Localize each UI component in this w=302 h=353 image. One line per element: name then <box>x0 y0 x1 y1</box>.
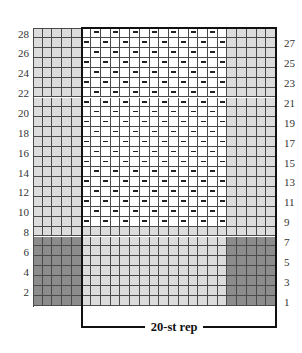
chart-cell <box>169 266 179 276</box>
chart-cell <box>62 107 72 117</box>
purl-symbol <box>152 151 157 153</box>
purl-symbol <box>142 180 147 182</box>
purl-symbol <box>133 31 138 33</box>
chart-cell <box>72 127 82 137</box>
chart-cell <box>227 237 237 247</box>
chart-cell <box>159 187 169 197</box>
chart-cell <box>120 68 130 78</box>
purl-symbol <box>201 101 206 103</box>
chart-cell <box>120 286 130 296</box>
chart-cell <box>33 117 43 127</box>
purl-symbol <box>210 91 215 93</box>
chart-cell <box>33 276 43 286</box>
chart-cell <box>189 266 199 276</box>
chart-cell <box>266 157 276 167</box>
chart-cell <box>101 227 111 237</box>
purl-symbol <box>133 210 138 212</box>
purl-symbol <box>191 91 196 93</box>
chart-cell <box>140 107 150 117</box>
chart-cell <box>140 227 150 237</box>
chart-cell <box>257 237 267 247</box>
chart-cell <box>227 88 237 98</box>
chart-cell <box>33 127 43 137</box>
purl-symbol <box>94 51 99 53</box>
chart-cell <box>101 266 111 276</box>
purl-symbol <box>142 200 147 202</box>
chart-cell <box>150 227 160 237</box>
chart-cell <box>91 137 101 147</box>
chart-cell <box>52 286 62 296</box>
chart-cell <box>218 68 228 78</box>
chart-cell <box>189 276 199 286</box>
chart-cell <box>198 107 208 117</box>
chart-cell <box>179 286 189 296</box>
chart-cell <box>208 227 218 237</box>
chart-cell <box>247 147 257 157</box>
chart-cell <box>150 58 160 68</box>
chart-cell <box>266 207 276 217</box>
purl-symbol <box>103 141 108 143</box>
chart-cell <box>208 286 218 296</box>
purl-symbol <box>94 131 99 133</box>
chart-cell <box>150 78 160 88</box>
purl-symbol <box>171 31 176 33</box>
chart-cell <box>43 98 53 108</box>
chart-cell <box>150 157 160 167</box>
chart-cell <box>266 78 276 88</box>
chart-cell <box>266 38 276 48</box>
chart-cell <box>247 78 257 88</box>
chart-cell <box>208 78 218 88</box>
purl-symbol <box>210 131 215 133</box>
chart-cell <box>91 117 101 127</box>
chart-cell <box>150 217 160 227</box>
purl-symbol <box>84 41 89 43</box>
chart-cell <box>198 276 208 286</box>
chart-cell <box>111 58 121 68</box>
chart-cell <box>101 167 111 177</box>
chart-cell <box>266 266 276 276</box>
chart-cell <box>120 246 130 256</box>
chart-cell <box>150 256 160 266</box>
purl-symbol <box>142 121 147 123</box>
chart-cell <box>247 227 257 237</box>
purl-symbol <box>181 101 186 103</box>
chart-cell <box>33 246 43 256</box>
purl-symbol <box>123 161 128 163</box>
chart-cell <box>198 68 208 78</box>
chart-cell <box>218 88 228 98</box>
chart-cell <box>150 296 160 306</box>
chart-cell <box>179 237 189 247</box>
chart-cell <box>247 98 257 108</box>
purl-symbol <box>113 91 118 93</box>
purl-symbol <box>220 180 225 182</box>
chart-cell <box>33 177 43 187</box>
chart-cell <box>237 38 247 48</box>
row-label-right: 17 <box>284 138 302 148</box>
chart-cell <box>237 127 247 137</box>
chart-cell <box>72 78 82 88</box>
chart-cell <box>62 28 72 38</box>
chart-cell <box>266 68 276 78</box>
chart-cell <box>159 296 169 306</box>
chart-cell <box>91 98 101 108</box>
chart-cell <box>130 217 140 227</box>
chart-cell <box>62 246 72 256</box>
purl-symbol <box>94 111 99 113</box>
chart-cell <box>72 177 82 187</box>
chart-cell <box>111 117 121 127</box>
chart-cell <box>169 296 179 306</box>
chart-cell <box>91 177 101 187</box>
chart-cell <box>33 207 43 217</box>
purl-symbol <box>191 210 196 212</box>
chart-cell <box>169 98 179 108</box>
chart-cell <box>227 68 237 78</box>
row-label-right: 5 <box>284 257 302 267</box>
purl-symbol <box>142 81 147 83</box>
chart-cell <box>33 78 43 88</box>
chart-cell <box>189 177 199 187</box>
chart-cell <box>82 246 92 256</box>
chart-cell <box>52 256 62 266</box>
chart-cell <box>247 246 257 256</box>
chart-cell <box>159 266 169 276</box>
chart-cell <box>33 217 43 227</box>
